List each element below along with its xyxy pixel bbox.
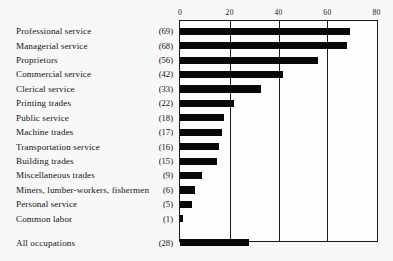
bar <box>180 172 202 179</box>
bar <box>180 57 318 64</box>
bars-layer <box>179 20 378 242</box>
category-label: Miscellaneous trades <box>16 168 95 182</box>
bar <box>180 239 249 246</box>
category-label: Personal service <box>16 197 77 211</box>
category-value-label: (28) <box>100 236 173 250</box>
category-label: Proprietors <box>16 53 58 67</box>
category-label: Professional service <box>16 24 91 38</box>
category-label: Machine trades <box>16 125 73 139</box>
bar <box>180 158 217 165</box>
category-value-label: (33) <box>100 82 173 96</box>
category-value-label: (6) <box>100 183 173 197</box>
category-value-label: (68) <box>100 39 173 53</box>
bar <box>180 143 219 150</box>
category-label: Public service <box>16 111 69 125</box>
category-value-label: (42) <box>100 67 173 81</box>
bar <box>180 100 234 107</box>
bar <box>180 28 350 35</box>
category-label: All occupations <box>16 236 75 250</box>
category-value-label: (5) <box>100 197 173 211</box>
category-label: Printing trades <box>16 96 71 110</box>
bar <box>180 71 283 78</box>
bar <box>180 215 182 222</box>
bar <box>180 85 261 92</box>
category-label: Clerical service <box>16 82 75 96</box>
category-value-label: (16) <box>100 140 173 154</box>
category-label: Commercial service <box>16 67 91 81</box>
bar-chart: 0 20 40 60 80 Professional service(69)Ma… <box>0 0 393 261</box>
category-value-label: (56) <box>100 53 173 67</box>
category-value-label: (17) <box>100 125 173 139</box>
bar <box>180 42 347 49</box>
category-value-label: (9) <box>100 168 173 182</box>
category-value-label: (1) <box>100 212 173 226</box>
category-label: Transportation service <box>16 140 100 154</box>
category-value-label: (22) <box>100 96 173 110</box>
bar <box>180 129 222 136</box>
bar <box>180 186 195 193</box>
category-label: Managerial service <box>16 39 88 53</box>
category-value-label: (15) <box>100 154 173 168</box>
category-value-label: (69) <box>100 24 173 38</box>
category-label: Building trades <box>16 154 74 168</box>
bar <box>180 114 224 121</box>
category-label: Common labor <box>16 212 72 226</box>
bar <box>180 201 192 208</box>
category-value-label: (18) <box>100 111 173 125</box>
